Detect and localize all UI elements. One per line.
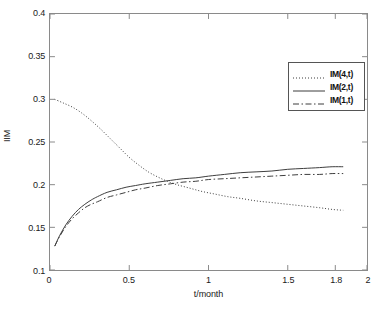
- series-line: [55, 99, 343, 210]
- series-line: [55, 174, 343, 247]
- legend-label: IM(1,t): [330, 95, 353, 105]
- legend-label: IM(4,t): [330, 69, 353, 79]
- chart-legend: IM(4,t)IM(2,t)IM(1,t): [288, 62, 365, 111]
- y-axis-tick-label: 0.2: [33, 180, 45, 190]
- y-axis-tick-label: 0.3: [33, 94, 45, 104]
- x-axis-tick-label: 2: [366, 275, 371, 285]
- plot-area: [49, 13, 368, 271]
- x-axis-tick-label: 1: [206, 275, 211, 285]
- y-axis-tick-label: 0.4: [33, 8, 45, 18]
- y-axis-tick-label: 0.15: [28, 223, 45, 233]
- series-line: [55, 167, 343, 246]
- x-axis-label: t/month: [49, 289, 368, 299]
- legend-item: IM(2,t): [292, 80, 360, 93]
- figure-canvas: 0.10.150.20.250.30.350.4 IIM t/month IM(…: [0, 0, 382, 313]
- legend-item: IM(1,t): [292, 93, 360, 106]
- legend-item: IM(4,t): [292, 67, 360, 80]
- chart-lines: [50, 14, 367, 270]
- legend-line-sample: [292, 82, 326, 92]
- x-axis-tick-label: 0.5: [123, 275, 135, 285]
- y-axis-tick-label: 0.1: [33, 266, 45, 276]
- y-axis-tick-label: 0.35: [28, 51, 45, 61]
- legend-line-sample: [292, 69, 326, 79]
- y-axis-tick-labels: 0.10.150.20.250.30.350.4: [0, 0, 45, 313]
- y-axis-tick-label: 0.25: [28, 137, 45, 147]
- x-axis-tick-label: 1.5: [282, 275, 294, 285]
- legend-line-sample: [292, 95, 326, 105]
- legend-label: IM(2,t): [330, 82, 353, 92]
- y-axis-label: IIM: [2, 116, 12, 156]
- x-axis-tick-label: 0: [47, 275, 52, 285]
- x-axis-tick-label: 1.8: [330, 275, 342, 285]
